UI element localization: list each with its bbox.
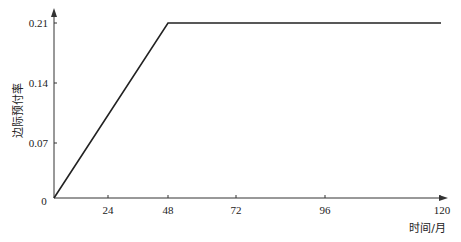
x-tick-label: 72	[231, 204, 242, 216]
y-tick-label: 0.07	[29, 137, 49, 149]
y-axis-arrow-icon	[51, 8, 57, 17]
x-tick-label: 48	[163, 204, 175, 216]
x-tick-label: 24	[103, 204, 115, 216]
data-line	[54, 23, 441, 198]
axes	[51, 8, 448, 201]
y-tick-label: 0.21	[29, 17, 48, 29]
y-axis-title: 边际预付率	[11, 83, 25, 138]
line-chart: 0 24 48 72 96 120 0.07 0.14 0.21 时间/月 边际…	[0, 0, 461, 242]
origin-label: 0	[41, 195, 47, 207]
x-tick-label: 120	[434, 204, 451, 216]
x-tick-label: 96	[320, 204, 332, 216]
y-tick-label: 0.14	[29, 77, 49, 89]
x-axis-title: 时间/月	[409, 222, 446, 235]
